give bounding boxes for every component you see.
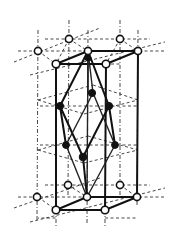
crystal-structure-diagram	[0, 0, 174, 249]
